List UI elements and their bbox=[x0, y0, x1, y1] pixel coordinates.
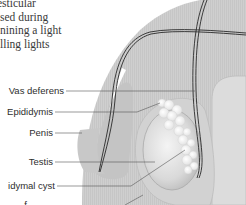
illustration bbox=[0, 0, 246, 205]
anatomy-diagram: esticular sed during nining a light llin… bbox=[0, 0, 246, 205]
label-scrotum-partial: f bbox=[15, 199, 27, 205]
label-testis: Testis bbox=[2, 156, 53, 167]
thigh-region bbox=[212, 76, 246, 205]
label-epididymis: Epididymis bbox=[2, 106, 53, 117]
label-epididymal-cyst: idymal cyst bbox=[0, 180, 55, 191]
label-vas-deferens: Vas deferens bbox=[2, 85, 64, 96]
label-penis: Penis bbox=[2, 127, 53, 138]
